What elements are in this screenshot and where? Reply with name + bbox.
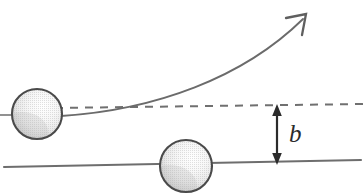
scattering-diagram-svg: b <box>0 0 364 194</box>
impact-parameter-label: b <box>289 120 302 147</box>
diagram-canvas: b <box>0 0 364 194</box>
